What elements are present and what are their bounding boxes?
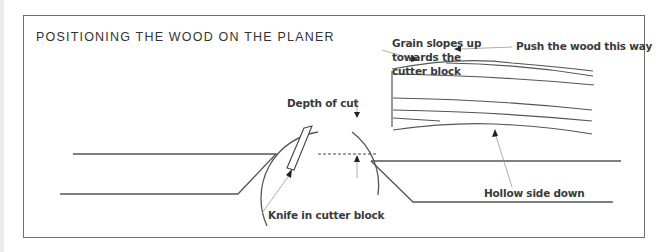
hollow-leader [495,133,512,187]
knife-label: Knife in cutter block [268,208,384,222]
hollow-label: Hollow side down [484,186,585,200]
push-label: Push the wood this way [516,39,652,53]
knife-icon [287,126,312,170]
infeed-table [60,154,276,194]
depth-label: Depth of cut [287,96,358,110]
grain-label: Grain slopes up towards the cutter block [392,36,481,78]
